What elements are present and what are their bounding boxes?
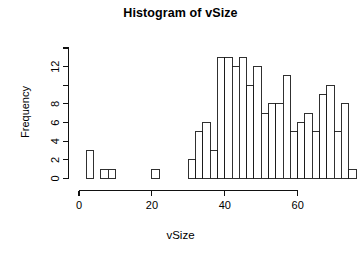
x-axis-tick-label: 40 — [219, 199, 231, 211]
histogram-bar — [298, 123, 305, 179]
bars-group — [86, 57, 356, 178]
y-axis-tick-label: 6 — [49, 120, 61, 126]
histogram-bar — [261, 113, 268, 178]
histogram-bar — [334, 132, 341, 179]
histogram-bar — [225, 57, 232, 178]
y-axis-tick-label: 8 — [49, 101, 61, 107]
histogram-bar — [247, 85, 254, 178]
histogram-bar — [312, 132, 319, 179]
histogram-bar — [349, 169, 356, 178]
histogram-bar — [152, 169, 159, 178]
histogram-bar — [203, 123, 210, 179]
histogram-bar — [218, 57, 225, 178]
histogram-bar — [232, 67, 239, 179]
histogram-bar — [86, 151, 93, 179]
y-axis-tick-label: 2 — [49, 157, 61, 163]
histogram-bar — [320, 95, 327, 179]
histogram-bar — [276, 104, 283, 179]
histogram-bar — [196, 132, 203, 179]
histogram-bar — [101, 169, 108, 178]
histogram-bar — [210, 151, 217, 179]
y-axis-tick-label: 4 — [49, 138, 61, 144]
histogram-bar — [341, 104, 348, 179]
histogram-bar — [108, 169, 115, 178]
x-axis-tick-label: 0 — [76, 199, 82, 211]
histogram-bar — [254, 67, 261, 179]
histogram-bar — [305, 113, 312, 178]
histogram-bar — [283, 76, 290, 179]
histogram-plot: Histogram of vSize Frequency vSize 02468… — [0, 0, 361, 260]
x-axis-tick-label: 20 — [146, 199, 158, 211]
histogram-bar — [188, 160, 195, 179]
y-axis-tick-label: 12 — [49, 61, 61, 73]
chart-canvas: 02468120204060 — [0, 0, 361, 260]
histogram-bar — [327, 85, 334, 178]
histogram-bar — [239, 57, 246, 178]
histogram-bar — [290, 132, 297, 179]
y-axis-tick-label: 0 — [49, 175, 61, 181]
histogram-bar — [269, 104, 276, 179]
x-axis-tick-label: 60 — [292, 199, 304, 211]
